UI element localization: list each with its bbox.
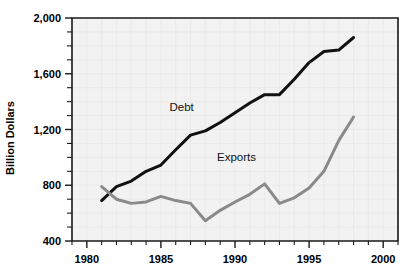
chart-container: 4008001,2001,6002,000 198019851990199520…	[0, 0, 414, 276]
x-tick-label: 1985	[149, 253, 173, 265]
series-label-debt: Debt	[170, 101, 195, 113]
y-tick-label: 1,600	[33, 68, 61, 80]
y-tick-label: 2,000	[33, 12, 61, 24]
y-tick-label: 1,200	[33, 124, 61, 136]
x-tick-label: 1980	[75, 253, 99, 265]
y-tick-label: 800	[43, 179, 61, 191]
x-tick-label: 1990	[223, 253, 247, 265]
y-tick-label: 400	[43, 235, 61, 247]
y-axis-title: Billion Dollars	[4, 101, 16, 175]
x-tick-label: 2000	[371, 253, 395, 265]
line-chart: 4008001,2001,6002,000 198019851990199520…	[0, 0, 414, 276]
x-tick-label: 1995	[297, 253, 321, 265]
series-label-exports: Exports	[217, 151, 256, 163]
